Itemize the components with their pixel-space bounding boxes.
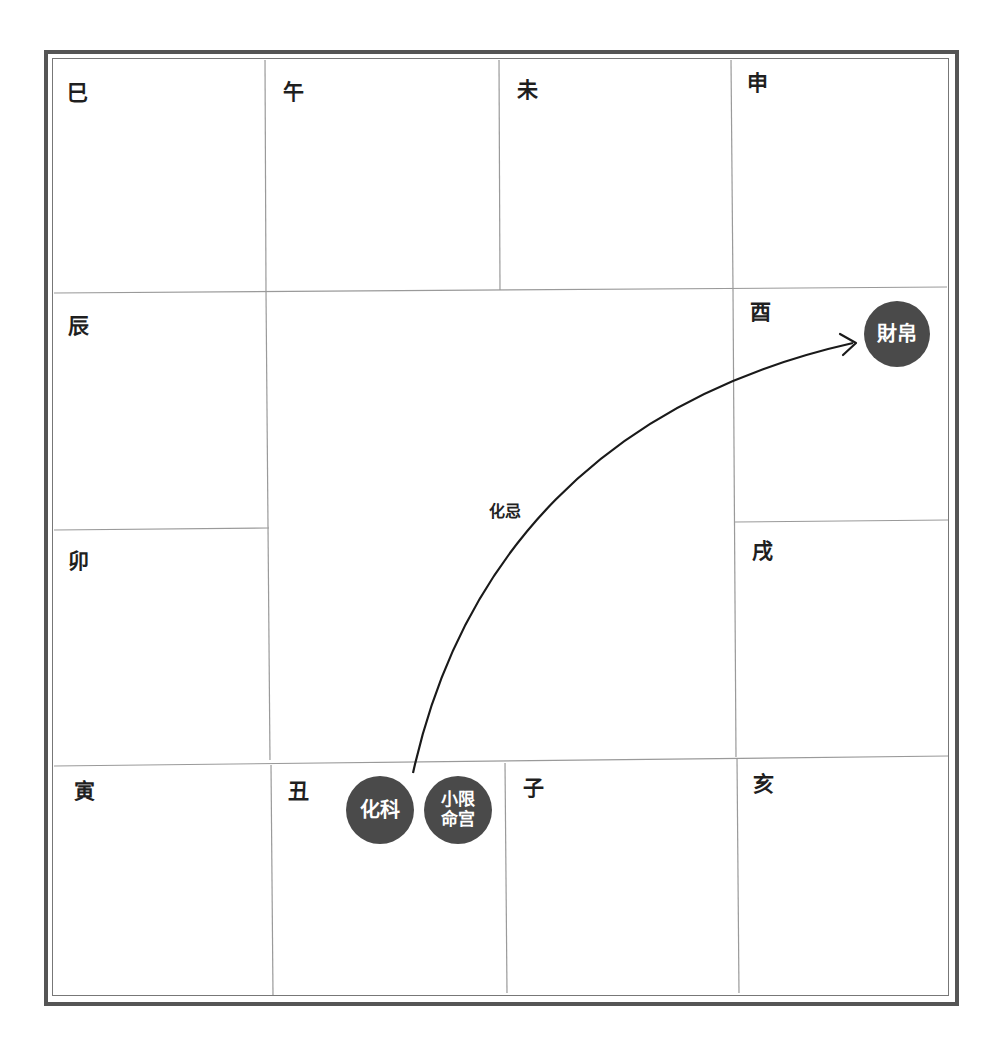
grid-line — [265, 60, 266, 292]
grid-line — [735, 520, 948, 522]
grid-line — [733, 290, 736, 757]
grid-line — [505, 763, 507, 993]
hua-ji-arrow-path — [413, 343, 853, 773]
cai-bo-label: 財帛 — [877, 323, 917, 346]
hua-ke-label: 化科 — [360, 799, 400, 822]
grid-line — [499, 60, 500, 290]
cai-bo-badge: 財帛 — [864, 301, 930, 367]
ming-gong-label: 命宫 — [441, 810, 475, 830]
palace-grid — [0, 0, 1003, 1051]
grid-line — [731, 60, 733, 290]
palace-chou: 丑 — [288, 781, 309, 802]
palace-wei: 未 — [517, 80, 538, 101]
hua-ji-label: 化忌 — [489, 498, 521, 522]
palace-hai: 亥 — [753, 774, 774, 795]
hua-ke-badge: 化科 — [346, 776, 414, 844]
grid-line — [271, 765, 273, 995]
grid-line — [266, 292, 270, 760]
palace-chen: 辰 — [68, 316, 89, 337]
palace-wu: 午 — [283, 82, 304, 103]
palace-xu: 戌 — [752, 541, 773, 562]
palace-si: 巳 — [67, 83, 88, 104]
palace-you: 酉 — [750, 302, 771, 323]
palace-shen: 申 — [747, 73, 768, 94]
xiao-xian-label: 小限 — [441, 790, 475, 810]
grid-line — [737, 758, 739, 993]
grid-line — [54, 528, 269, 530]
palace-zi: 子 — [523, 778, 544, 799]
grid-line — [54, 756, 948, 766]
xiao-xian-ming-gong-badge: 小限 命宫 — [424, 776, 492, 844]
palace-mao: 卯 — [68, 551, 89, 572]
palace-yin: 寅 — [74, 781, 95, 802]
